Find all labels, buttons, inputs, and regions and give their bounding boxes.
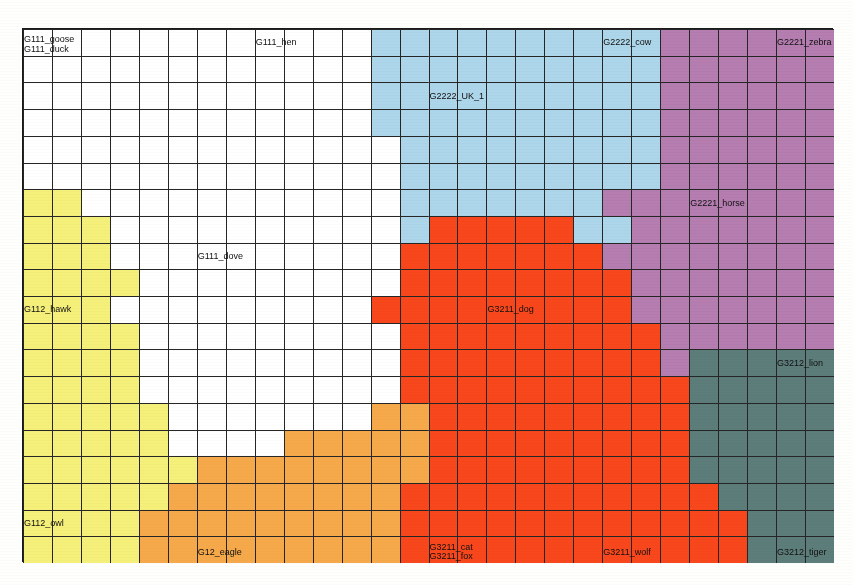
som-cluster-map[interactable]: G111_gooseG111_duckG111_henG2222_cowG222… (22, 28, 833, 562)
screenshot-stage: G111_gooseG111_duckG111_henG2222_cowG222… (0, 0, 853, 585)
som-grid-canvas[interactable] (23, 29, 834, 563)
